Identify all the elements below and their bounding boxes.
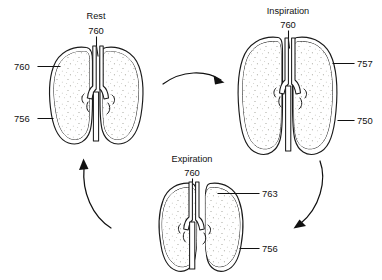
- respiratory-cycle-diagram: Rest 760 76: [0, 0, 382, 280]
- airway-inspiration-stem: [286, 86, 291, 151]
- lung-figure-expiration: Expiration 760 763 756: [159, 154, 277, 274]
- airway-expiration-stem: [190, 222, 195, 269]
- ref-number-expiration-trachea: 760: [184, 167, 200, 178]
- arrow-rest-to-inspiration-head: [214, 76, 225, 85]
- state-label-rest: Rest: [87, 11, 106, 21]
- arrow-expiration-to-rest-head: [79, 159, 89, 171]
- state-label-expiration: Expiration: [172, 154, 213, 164]
- lung-figure-rest: Rest 760 76: [14, 11, 146, 146]
- ref-number-inspiration-757: 757: [357, 58, 373, 69]
- arrow-rest-to-inspiration: [163, 73, 225, 85]
- ref-number-rest-760: 760: [14, 61, 30, 72]
- airway-rest-left-stem: [93, 92, 98, 141]
- ref-number-rest-756: 756: [14, 113, 30, 124]
- figure-canvas: Rest 760 76: [0, 0, 382, 280]
- arrow-inspiration-to-expiration-shaft: [300, 161, 323, 224]
- arrow-rest-to-inspiration-shaft: [163, 73, 221, 84]
- ref-number-inspiration-750: 750: [357, 115, 373, 126]
- ref-number-rest-trachea: 760: [88, 25, 104, 36]
- ref-number-expiration-763: 763: [262, 188, 278, 199]
- arrow-inspiration-to-expiration: [294, 161, 323, 229]
- ref-number-expiration-756: 756: [262, 243, 278, 254]
- ref-number-inspiration-trachea: 760: [280, 19, 296, 30]
- lung-figure-inspiration: Inspiration 760 757 750: [238, 6, 372, 156]
- state-label-inspiration: Inspiration: [267, 6, 309, 16]
- arrow-expiration-to-rest: [79, 159, 111, 229]
- arrow-expiration-to-rest-shaft: [84, 168, 111, 228]
